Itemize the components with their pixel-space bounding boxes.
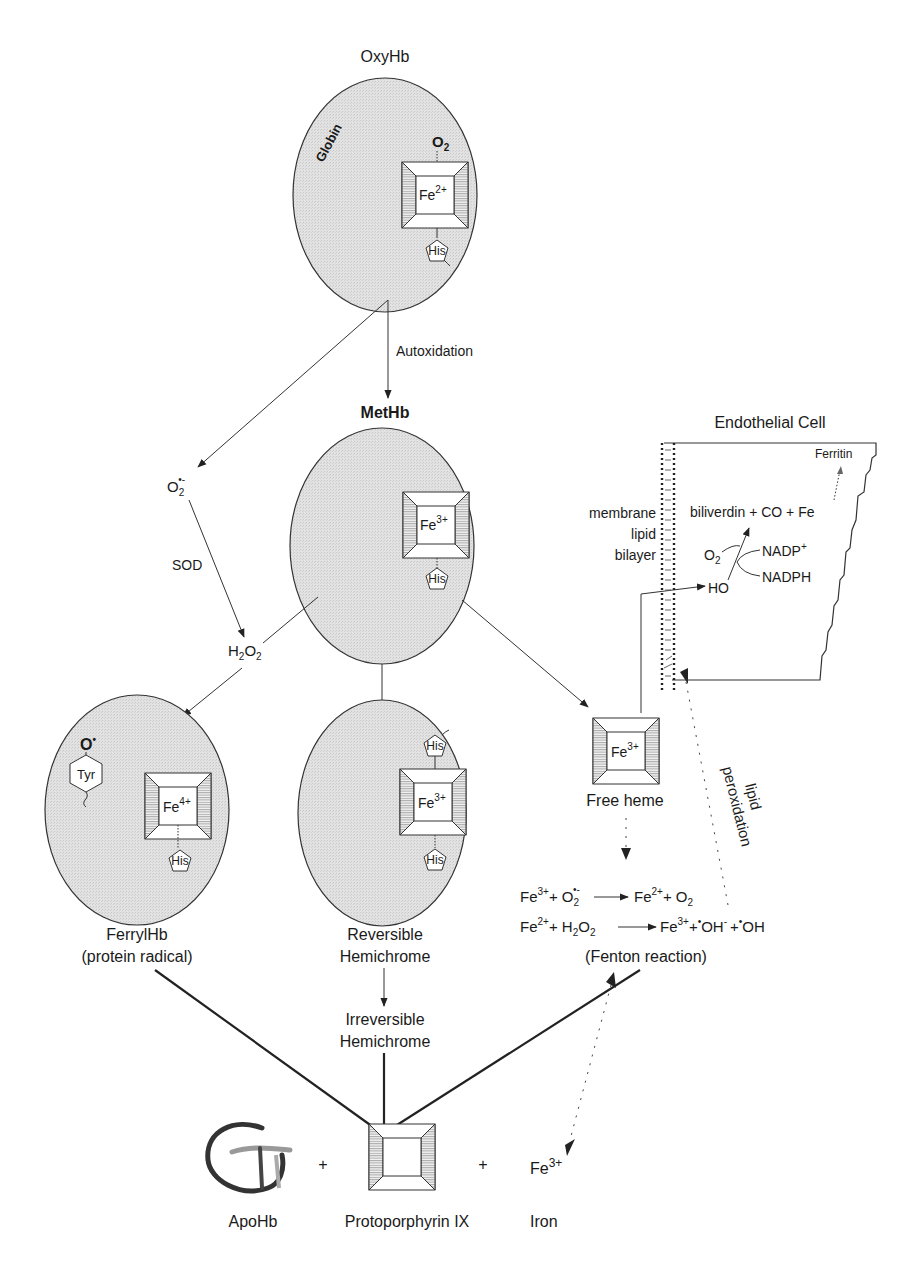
fenton-label: (Fenton reaction) — [585, 948, 707, 965]
fenton-iron-dashed — [570, 985, 611, 1140]
hydrogen-peroxide-label: H2O2 — [228, 642, 262, 662]
plus-sign: + — [318, 1156, 327, 1173]
sod-label: SOD — [172, 557, 202, 573]
apohb-label: ApoHb — [229, 1213, 278, 1230]
his-label: His — [171, 854, 188, 868]
methb-title: MetHb — [361, 404, 410, 421]
autoxidation-label: Autoxidation — [396, 343, 473, 359]
bilayer-label: bilayer — [615, 547, 657, 563]
lipid-label: lipid — [631, 526, 656, 542]
irrev-hemichrome-label: Irreversible — [345, 1011, 424, 1028]
oxyhb-node: OxyHb Globin O2 Fe2+ His — [293, 48, 477, 312]
his-label: His — [428, 244, 445, 258]
irrev-hemichrome-sublabel: Hemichrome — [340, 1033, 431, 1050]
plus-sign: + — [478, 1156, 487, 1173]
ferrylhb-sublabel: (protein radical) — [81, 948, 192, 965]
protoporphyrin-icon — [369, 1124, 435, 1190]
hemoglobin-pathway-diagram: OxyHb Globin O2 Fe2+ His Autoxidation O2… — [0, 0, 920, 1277]
fenton-equation-1: Fe3++ O2•- — [520, 884, 580, 908]
oxyhb-title: OxyHb — [361, 48, 410, 65]
endothelial-cell: Endothelial Cell membrane lipid bilayer … — [589, 414, 876, 690]
membrane-label: membrane — [589, 505, 656, 521]
degradation-products: ApoHb + Protoporphyrin IX + Fe3+ Iron — [208, 1124, 563, 1230]
rev-hemichrome-sublabel: Hemichrome — [340, 948, 431, 965]
lipid-peroxidation-dashed — [686, 682, 728, 905]
ferrylhb-node: O• Tyr Fe4+ His FerrylHb (protein radica… — [45, 695, 229, 965]
lipid-peroxidation-label: lipid peroxidation — [719, 760, 773, 848]
heme-oxygenase-label: HO — [708, 580, 729, 596]
reversible-hemichrome-node: His Fe3+ His Reversible Hemichrome — [298, 700, 466, 965]
free-heme-label: Free heme — [586, 792, 663, 809]
peroxide-to-ferryl-arrow — [183, 668, 242, 716]
fenton-eq2-products: Fe3++•OH-+•OH — [660, 916, 765, 935]
fenton-equation-2: Fe2++ H2O2 — [520, 916, 596, 938]
superoxide-label: O2•- — [167, 474, 185, 498]
fenton-eq1-products: Fe2++ O2 — [634, 886, 694, 908]
fenton-reaction: Fe3++ O2•- Fe2++ O2 Fe2++ H2O2 Fe3++•OH-… — [520, 884, 765, 965]
nadph-label: NADPH — [762, 569, 811, 585]
ferrylhb-label: FerrylHb — [106, 926, 167, 943]
ferryl-to-degradation-line — [155, 970, 380, 1132]
apohb-icon — [208, 1125, 290, 1191]
his-top-label: His — [426, 739, 443, 753]
fenton-to-degradation-line — [386, 970, 640, 1132]
o2-cofactor: O2 — [704, 547, 721, 566]
ferritin-label: Ferritin — [815, 447, 852, 461]
his-label: His — [428, 572, 445, 586]
rev-hemichrome-label: Reversible — [347, 926, 423, 943]
cell-outline — [672, 443, 876, 680]
methb-to-free-heme-arrow — [462, 600, 588, 707]
iron-label: Iron — [530, 1213, 558, 1230]
endothelial-title: Endothelial Cell — [714, 414, 825, 431]
nadp-label: NADP+ — [762, 541, 807, 559]
iron-ion: Fe3+ — [530, 1156, 562, 1177]
free-heme-node: Fe3+ Free heme — [586, 718, 663, 809]
his-bottom-label: His — [426, 853, 443, 867]
methb-node: MetHb Fe3+ His — [290, 404, 474, 664]
tyr-label: Tyr — [77, 767, 96, 782]
heme-products-label: biliverdin + CO + Fe — [690, 504, 815, 520]
protoporphyrin-label: Protoporphyrin IX — [345, 1213, 470, 1230]
